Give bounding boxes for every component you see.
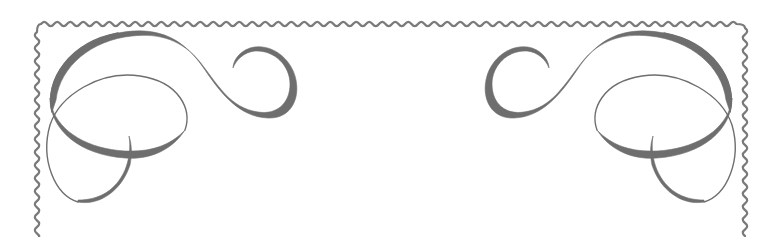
flourish-top-left [47,31,297,203]
flourish-top-right [485,31,735,203]
ornamental-frame [0,0,778,237]
wavy-border [35,22,747,237]
